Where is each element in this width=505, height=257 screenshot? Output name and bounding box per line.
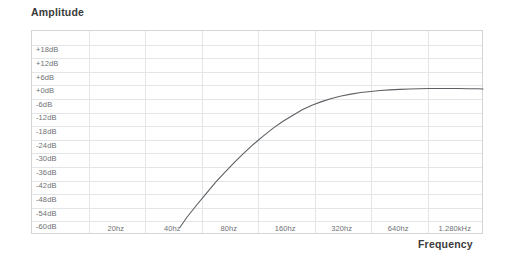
y-tick-label: -54dB bbox=[36, 209, 57, 218]
y-tick-label: -18dB bbox=[36, 127, 57, 136]
x-axis-title: Frequency bbox=[418, 238, 473, 250]
gridline-vertical bbox=[428, 31, 429, 233]
y-tick-label: +12dB bbox=[36, 59, 58, 68]
gridline-vertical bbox=[258, 31, 259, 233]
x-tick-label: 20hz bbox=[88, 224, 145, 233]
gridline-vertical bbox=[145, 31, 146, 233]
y-tick-label: -30dB bbox=[36, 154, 57, 163]
gridline-horizontal bbox=[32, 140, 482, 141]
y-axis-title: Amplitude bbox=[31, 6, 84, 18]
gridline-horizontal bbox=[32, 45, 482, 46]
gridline-horizontal bbox=[32, 58, 482, 59]
gridline-horizontal bbox=[32, 113, 482, 114]
gridline-horizontal bbox=[32, 153, 482, 154]
gridline-vertical bbox=[202, 31, 203, 233]
x-tick-label: 80hz bbox=[201, 224, 258, 233]
gridline-horizontal bbox=[32, 126, 482, 127]
x-tick-label: 320hz bbox=[314, 224, 371, 233]
y-tick-label: -42dB bbox=[36, 181, 57, 190]
x-tick-label: 1.280kHz bbox=[427, 224, 484, 233]
y-tick-label: +0dB bbox=[36, 86, 54, 95]
gridline-horizontal bbox=[32, 167, 482, 168]
y-tick-label: -24dB bbox=[36, 141, 57, 150]
gridline-vertical bbox=[89, 31, 90, 233]
gridline-horizontal bbox=[32, 99, 482, 100]
y-tick-label: -48dB bbox=[36, 195, 57, 204]
gridline-horizontal bbox=[32, 194, 482, 195]
x-tick-label: 160hz bbox=[257, 224, 314, 233]
gridline-horizontal bbox=[32, 208, 482, 209]
y-tick-label: +18dB bbox=[36, 45, 58, 54]
y-tick-label: -6dB bbox=[36, 100, 52, 109]
gridline-horizontal bbox=[32, 85, 482, 86]
y-tick-label: -12dB bbox=[36, 113, 57, 122]
x-tick-label: 40hz bbox=[144, 224, 201, 233]
gridline-horizontal bbox=[32, 181, 482, 182]
gridline-horizontal bbox=[32, 72, 482, 73]
gridline-vertical bbox=[315, 31, 316, 233]
y-tick-label: +6dB bbox=[36, 73, 54, 82]
y-tick-label: -36dB bbox=[36, 168, 57, 177]
gridline-vertical bbox=[371, 31, 372, 233]
y-tick-label: -60dB bbox=[36, 222, 57, 231]
plot-area bbox=[31, 30, 483, 234]
frequency-response-chart: Amplitude +18dB+12dB+6dB+0dB-6dB-12dB-18… bbox=[0, 0, 505, 257]
x-tick-label: 640hz bbox=[370, 224, 427, 233]
gridline-horizontal bbox=[32, 221, 482, 222]
